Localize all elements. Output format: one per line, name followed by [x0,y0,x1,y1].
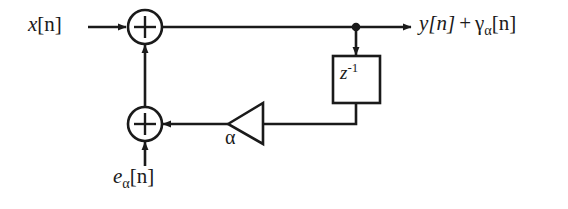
error-input-base: e [113,164,122,188]
output-plus-sign: + [459,11,471,35]
output-gamma-index: [n] [492,11,517,35]
output-gamma-base: γ [475,11,484,35]
input-signal-base: x [28,12,37,36]
input-signal-label: x[n] [28,14,62,35]
error-input-subscript: α [122,175,129,191]
output-first-term: y[n] [419,11,455,35]
gain-coefficient-label: α [225,127,235,147]
gain-value: α [225,126,235,148]
delay-exponent: -1 [347,60,358,75]
signal-flow-diagram: x[n] y[n]+γα[n] eα[n] α z-1 [0,0,568,209]
error-input-index: [n] [130,164,155,188]
delay-block-label: z-1 [340,62,358,82]
input-signal-index: [n] [37,12,62,36]
tap-junction-dot [352,23,361,32]
output-signal-label: y[n]+γα[n] [419,13,516,37]
error-input-signal-label: eα[n] [113,166,154,190]
output-gamma-subscript: α [484,22,491,38]
edge-delay-to-gain [263,103,356,124]
